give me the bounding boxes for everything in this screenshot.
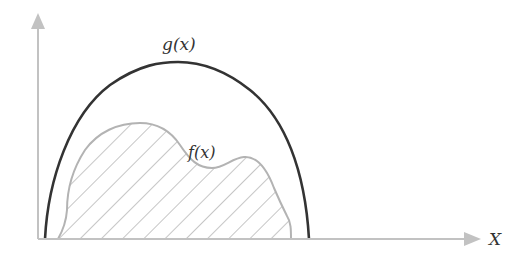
x-axis-arrow-icon [464,232,481,246]
f-curve-label: f(x) [188,143,215,162]
area-comparison-diagram: g(x) f(x) X [0,0,532,258]
x-axis-label: X [489,229,501,249]
g-curve-label: g(x) [162,34,196,54]
hatched-region [40,110,310,250]
y-axis-arrow-icon [31,13,45,29]
